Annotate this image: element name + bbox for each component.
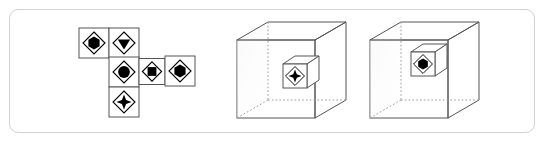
inner-cube-star	[283, 56, 319, 88]
net-cell-circle-middle	[109, 57, 139, 87]
net-cell-hexagon-middle-right	[165, 56, 195, 86]
cube-option-b	[370, 22, 479, 118]
cube-option-a	[237, 22, 346, 118]
inner-cube-hexagon	[411, 44, 447, 76]
figure-svg	[0, 0, 546, 144]
net-cell-square-middle	[139, 59, 165, 85]
net-cell-triangle-top-right	[109, 28, 139, 58]
figure-canvas	[0, 0, 546, 144]
cube-net	[79, 28, 195, 117]
net-cell-star-bottom	[109, 87, 139, 117]
figure-root	[0, 0, 546, 144]
net-cell-hexagon-top-left	[79, 28, 109, 58]
